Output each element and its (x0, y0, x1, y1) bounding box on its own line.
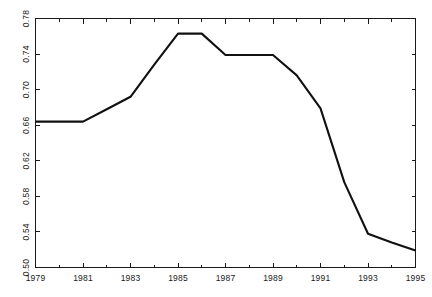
x-tick-label: 1981 (73, 273, 93, 283)
y-tick-label: 0.70 (21, 81, 31, 98)
x-axis-labels: 197919811983198519871989199119931995 (26, 273, 426, 283)
x-tick-label: 1991 (311, 273, 331, 283)
chart-container: 0.500.540.580.620.660.700.740.78 1979198… (0, 0, 432, 297)
x-tick-label: 1983 (121, 273, 141, 283)
x-tick-label: 1995 (406, 273, 426, 283)
x-tick-label: 1979 (26, 273, 46, 283)
y-tick-label: 0.62 (21, 152, 31, 169)
x-tick-label: 1985 (168, 273, 188, 283)
y-tick-label: 0.66 (21, 116, 31, 133)
y-tick-label: 0.78 (21, 10, 31, 27)
y-tick-label: 0.58 (21, 188, 31, 205)
y-tick-label: 0.74 (21, 45, 31, 62)
x-tick-label: 1989 (263, 273, 283, 283)
line-chart-svg: 0.500.540.580.620.660.700.740.78 1979198… (0, 0, 432, 297)
x-tick-label: 1987 (216, 273, 236, 283)
y-tick-label: 0.54 (21, 223, 31, 240)
chart-background (0, 0, 432, 297)
x-tick-label: 1993 (358, 273, 378, 283)
